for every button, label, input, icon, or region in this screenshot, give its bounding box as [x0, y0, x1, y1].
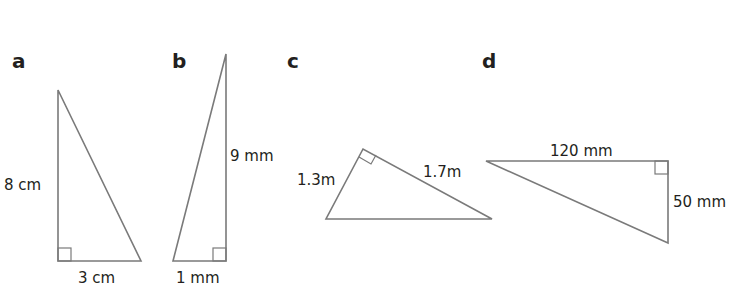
triangle-c-left-leg: 1.3m	[297, 171, 335, 189]
triangle-c-shape	[326, 149, 492, 219]
triangle-a-horizontal-side: 3 cm	[78, 269, 115, 287]
triangle-b: b 9 mm 1 mm	[172, 49, 274, 287]
right-angle-marker-a	[58, 248, 71, 261]
triangle-b-label: b	[172, 49, 186, 73]
triangle-a-label: a	[12, 49, 26, 73]
right-angle-marker-d	[655, 161, 668, 174]
triangle-a-vertical-side: 8 cm	[4, 176, 41, 194]
triangle-d-label: d	[482, 49, 496, 73]
triangle-c-label: c	[287, 49, 299, 73]
triangle-a-shape	[58, 90, 141, 261]
triangle-b-horizontal-side: 1 mm	[176, 269, 220, 287]
triangle-d-horizontal-side: 120 mm	[550, 142, 613, 160]
triangles-diagram: a 8 cm 3 cm b 9 mm 1 mm c 1.3m 1.7m d 12…	[0, 0, 751, 294]
triangle-d: d 120 mm 50 mm	[482, 49, 726, 243]
triangle-b-shape	[173, 54, 226, 261]
right-angle-marker-c	[359, 155, 376, 164]
triangle-d-vertical-side: 50 mm	[673, 193, 726, 211]
triangle-d-shape	[486, 161, 668, 243]
triangle-c-right-leg: 1.7m	[423, 163, 461, 181]
triangle-c: c 1.3m 1.7m	[287, 49, 492, 219]
triangle-a: a 8 cm 3 cm	[4, 49, 141, 287]
triangle-b-vertical-side: 9 mm	[230, 147, 274, 165]
right-angle-marker-b	[213, 248, 226, 261]
